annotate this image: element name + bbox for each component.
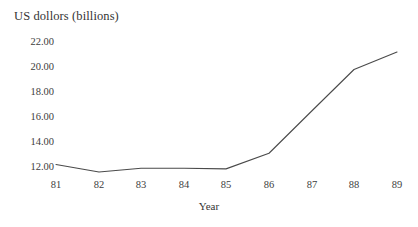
line-chart: US dollors (billions) 22.00 20.00 18.00 …: [0, 0, 418, 227]
x-axis-tick-label: 81: [36, 180, 76, 191]
x-axis-tick-labels: 81 82 83 84 85 86 87 88 89: [0, 0, 418, 227]
x-axis-tick-label: 88: [334, 180, 374, 191]
x-axis-tick-label: 87: [292, 180, 332, 191]
x-axis-tick-label: 84: [164, 180, 204, 191]
x-axis-tick-label: 82: [79, 180, 119, 191]
x-axis-tick-label: 83: [121, 180, 161, 191]
x-axis-tick-label: 85: [206, 180, 246, 191]
x-axis-tick-label: 89: [377, 180, 417, 191]
x-axis-label: Year: [0, 200, 418, 212]
x-axis-tick-label: 86: [249, 180, 289, 191]
